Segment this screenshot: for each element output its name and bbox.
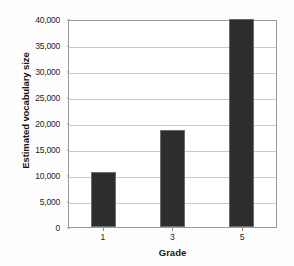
y-tick-label: 0 [55,223,60,233]
y-tick-label: 30,000 [35,67,60,77]
y-tick-label: 40,000 [35,15,60,25]
bar-chart-figure: Estimated vocabulary size 05,00010,00015… [0,0,294,266]
y-tick-label: 20,000 [35,119,60,129]
x-tick-mark [103,228,104,231]
x-tick-mark [242,228,243,231]
y-tick-label: 35,000 [35,41,60,51]
bar [229,19,254,227]
plot-area [68,20,277,228]
x-axis-title: Grade [68,247,277,258]
x-tick-label: 5 [230,232,255,242]
x-tick-mark [172,228,173,231]
y-tick-label: 10,000 [35,171,60,181]
y-axis-tick-labels: 05,00010,00015,00020,00025,00030,00035,0… [8,12,60,229]
x-tick-label: 3 [160,232,185,242]
x-tick-label: 1 [90,232,115,242]
y-tick-label: 5,000 [40,197,60,207]
y-tick-label: 15,000 [35,145,60,155]
y-tick-label: 25,000 [35,93,60,103]
x-tick: 5 [230,228,255,242]
bar-series [69,21,276,227]
bar [160,130,185,227]
bar [91,172,116,227]
x-axis-tick-labels: 135 [68,228,277,242]
x-tick: 1 [90,228,115,242]
x-tick: 3 [160,228,185,242]
